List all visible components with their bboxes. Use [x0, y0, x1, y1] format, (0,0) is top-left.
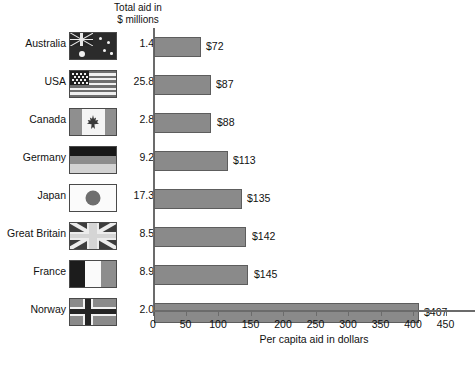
- australia-flag: [69, 32, 117, 60]
- bar-germany: [154, 151, 228, 171]
- aid-column-header: Total aid in $ millions: [96, 2, 180, 26]
- germany-flag: [69, 146, 117, 174]
- x-tick-label: 0: [150, 318, 156, 330]
- country-label: Australia: [0, 37, 66, 49]
- per-capita-aid-bar-chart: Total aid in $ millions Australia 1.4: [0, 0, 475, 375]
- x-tick: [186, 310, 187, 316]
- bar-value-label: $135: [247, 192, 270, 204]
- x-tick: [283, 310, 284, 316]
- x-tick: [316, 310, 317, 316]
- bar-value-label: $88: [217, 116, 235, 128]
- bar-value-label: $87: [216, 78, 234, 90]
- bar-usa: [154, 75, 211, 95]
- x-tick-label: 250: [307, 318, 325, 330]
- bar-great-britain: [154, 227, 246, 247]
- aid-column-header-line2: $ millions: [96, 14, 180, 26]
- x-tick-label: 300: [339, 318, 357, 330]
- bar-value-label: $113: [233, 154, 256, 166]
- total-aid-value: 8.5: [120, 227, 154, 239]
- x-tick: [218, 310, 219, 316]
- x-tick-label: 400: [404, 318, 422, 330]
- total-aid-value: 25.8: [120, 75, 154, 87]
- country-label: Canada: [0, 113, 66, 125]
- bar-value-label: $142: [252, 230, 275, 242]
- bar-japan: [154, 189, 242, 209]
- x-axis-title: Per capita aid in dollars: [153, 333, 475, 345]
- bar-france: [154, 265, 248, 285]
- total-aid-value: 2.0: [120, 303, 154, 315]
- country-label: France: [0, 265, 66, 277]
- canada-flag: [69, 108, 117, 136]
- plot-area: $72 $87 $88 $113 $135 $142 $145 $407: [153, 28, 475, 310]
- x-tick: [348, 310, 349, 316]
- x-tick: [251, 310, 252, 316]
- x-tick-label: 150: [242, 318, 260, 330]
- country-label: Japan: [0, 189, 66, 201]
- x-tick: [446, 310, 447, 316]
- japan-flag: [69, 184, 117, 212]
- france-flag: [69, 260, 117, 288]
- x-tick: [153, 310, 154, 316]
- x-tick-label: 350: [372, 318, 390, 330]
- aid-column-header-line1: Total aid in: [96, 2, 180, 14]
- total-aid-value: 17.3: [120, 189, 154, 201]
- country-label: Great Britain: [0, 227, 66, 239]
- x-tick: [413, 310, 414, 316]
- bar-value-label: $145: [254, 268, 277, 280]
- great-britain-flag: [69, 222, 117, 250]
- total-aid-value: 8.9: [120, 265, 154, 277]
- sun-disc-icon: [86, 191, 101, 206]
- country-label: Germany: [0, 151, 66, 163]
- x-tick: [381, 310, 382, 316]
- total-aid-value: 1.4: [120, 37, 154, 49]
- total-aid-value: 2.8: [120, 113, 154, 125]
- x-tick-label: 50: [180, 318, 192, 330]
- x-tick-label: 100: [209, 318, 227, 330]
- country-label: USA: [0, 75, 66, 87]
- bar-canada: [154, 113, 211, 133]
- country-label: Norway: [0, 303, 66, 315]
- x-tick-label: 450: [437, 318, 455, 330]
- x-axis-line: [153, 310, 475, 312]
- usa-flag: [69, 70, 117, 98]
- bar-value-label: $407: [424, 306, 447, 318]
- x-tick-label: 200: [274, 318, 292, 330]
- bar-value-label: $72: [206, 40, 224, 52]
- total-aid-value: 9.2: [120, 151, 154, 163]
- bar-australia: [154, 37, 201, 57]
- norway-flag: [69, 298, 117, 326]
